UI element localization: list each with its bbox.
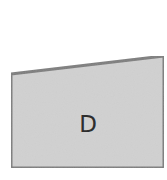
- shape-label-d: D: [79, 111, 97, 137]
- shape-d: D: [11, 56, 164, 168]
- diagram-canvas: D: [0, 0, 167, 180]
